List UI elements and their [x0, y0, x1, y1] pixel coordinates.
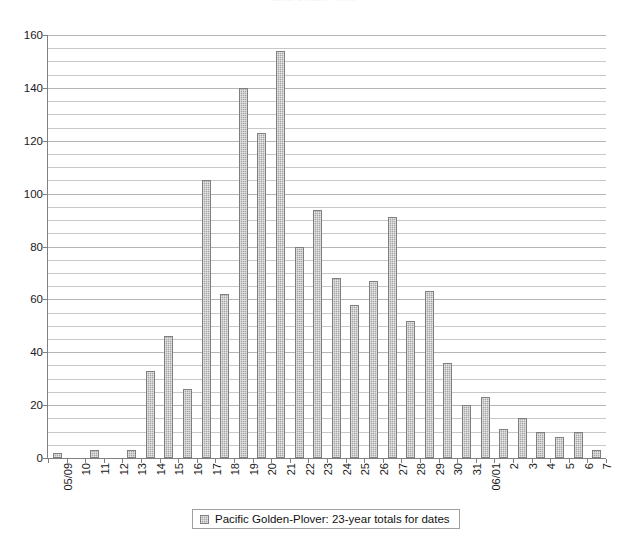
bar[interactable] — [499, 429, 508, 458]
x-axis-tick-label: 11 — [99, 463, 111, 474]
y-axis-tick-label: 160 — [3, 29, 43, 41]
bar[interactable] — [425, 291, 434, 458]
bar[interactable] — [257, 133, 266, 458]
bar[interactable] — [164, 336, 173, 458]
bar[interactable] — [202, 180, 211, 458]
y-axis-tick-label: 40 — [3, 346, 43, 358]
bar[interactable] — [127, 450, 136, 458]
y-axis-tick-label: 0 — [3, 452, 43, 464]
legend-label: Pacific Golden-Plover: 23-year totals fo… — [215, 513, 450, 525]
x-axis-tick-label: 2 — [508, 463, 520, 469]
bar-slot — [104, 35, 123, 458]
bar-slot — [67, 35, 86, 458]
bar-slot — [327, 35, 346, 458]
bar[interactable] — [406, 321, 415, 458]
x-axis-tick-label: 14 — [155, 463, 167, 475]
bar-slot — [439, 35, 458, 458]
bar-slot — [494, 35, 513, 458]
x-axis-tick-label: 17 — [211, 463, 223, 475]
bar[interactable] — [350, 305, 359, 458]
bar[interactable] — [276, 51, 285, 458]
bar[interactable] — [239, 88, 248, 458]
y-axis-tick-label: 80 — [3, 241, 43, 253]
bar-slot — [141, 35, 160, 458]
bar[interactable] — [536, 432, 545, 458]
bar[interactable] — [388, 217, 397, 458]
x-axis-tick-label: 13 — [136, 463, 148, 475]
x-axis-tick-label: 7 — [601, 463, 613, 469]
bar[interactable] — [369, 281, 378, 458]
bar[interactable] — [332, 278, 341, 458]
y-axis-tick-mark — [43, 141, 47, 142]
bar[interactable] — [518, 418, 527, 458]
x-axis-tick-label: 6 — [583, 463, 595, 469]
bar-slot — [401, 35, 420, 458]
y-axis-tick-label: 100 — [3, 188, 43, 200]
bar-slot — [234, 35, 253, 458]
x-axis-tick-label: 21 — [285, 463, 297, 475]
y-axis-tick-mark — [43, 194, 47, 195]
bar-slot — [513, 35, 532, 458]
bar[interactable] — [462, 405, 471, 458]
bar-slot — [197, 35, 216, 458]
bar-slot — [48, 35, 67, 458]
bar-slot — [383, 35, 402, 458]
x-axis-tick-label: 31 — [471, 463, 483, 475]
y-axis-tick-label: 20 — [3, 399, 43, 411]
y-axis-tick-mark — [43, 352, 47, 353]
bar-slot — [532, 35, 551, 458]
y-axis-tick-mark — [43, 35, 47, 36]
y-axis-tick-mark — [43, 247, 47, 248]
bar[interactable] — [295, 247, 304, 459]
x-axis-tick-label: 18 — [229, 463, 241, 475]
x-axis-tick-label: 29 — [434, 463, 446, 475]
x-axis-tick-label: 15 — [173, 463, 185, 475]
x-axis-tick-label: 06/01 — [490, 463, 502, 491]
bar-slot — [364, 35, 383, 458]
y-axis-tick-label: 140 — [3, 82, 43, 94]
bar[interactable] — [592, 450, 601, 458]
x-axis-tick-label: 3 — [527, 463, 539, 469]
bar-slot — [122, 35, 141, 458]
y-axis-tick-mark — [43, 88, 47, 89]
y-axis-tick-label: 120 — [3, 135, 43, 147]
bar-slot — [178, 35, 197, 458]
bar-slot — [550, 35, 569, 458]
bar-slot — [85, 35, 104, 458]
x-axis-tick-label: 05/09 — [62, 463, 74, 491]
bar-slot — [160, 35, 179, 458]
bar[interactable] — [146, 371, 155, 458]
clipped-chart-title: Pacific Golden-Plover — [0, 0, 623, 3]
bar[interactable] — [555, 437, 564, 458]
bar-slot — [476, 35, 495, 458]
y-axis-tick-mark — [43, 458, 47, 459]
bar[interactable] — [90, 450, 99, 458]
y-axis-tick-label: 60 — [3, 293, 43, 305]
x-axis-tick-label: 12 — [118, 463, 130, 475]
x-axis-tick-label: 20 — [266, 463, 278, 475]
bar-slot — [271, 35, 290, 458]
bar-slot — [215, 35, 234, 458]
bar-chart: Pacific Golden-Plover 160140120100806040… — [0, 0, 623, 547]
y-axis-labels: 160140120100806040200 — [0, 0, 43, 547]
bar[interactable] — [183, 389, 192, 458]
x-axis-tick-label: 30 — [452, 463, 464, 475]
x-axis-tick-label: 10 — [80, 463, 92, 475]
y-axis-line — [47, 35, 48, 459]
x-axis-tick-label: 22 — [304, 463, 316, 475]
bar-slot — [569, 35, 588, 458]
bar-slot — [290, 35, 309, 458]
x-axis-tick-label: 4 — [545, 463, 557, 469]
bar[interactable] — [220, 294, 229, 458]
x-axis-tick-label: 23 — [322, 463, 334, 475]
x-axis-tick-label: 24 — [341, 463, 353, 475]
bar[interactable] — [313, 210, 322, 459]
bar[interactable] — [481, 397, 490, 458]
bar[interactable] — [443, 363, 452, 458]
plot-area — [48, 35, 606, 458]
bar[interactable] — [574, 432, 583, 458]
chart-legend: Pacific Golden-Plover: 23-year totals fo… — [192, 509, 460, 529]
bar-slot — [308, 35, 327, 458]
bar-slot — [457, 35, 476, 458]
bar-slot — [346, 35, 365, 458]
